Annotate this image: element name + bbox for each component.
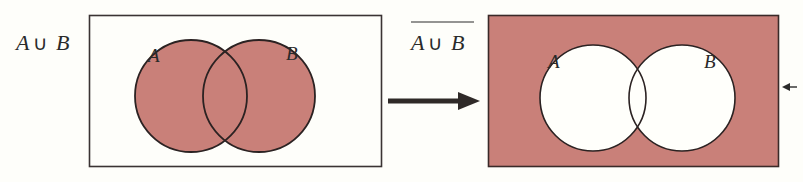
right-title-a: A <box>409 30 425 55</box>
right-title-union-symbol: ∪ <box>428 31 443 55</box>
right-title-b: B <box>451 30 464 55</box>
pointer-arrow-icon <box>782 83 797 91</box>
left-title-b: B <box>56 30 69 55</box>
left-circle-b-label: B <box>286 43 298 64</box>
left-panel-union: A B A ∪ B <box>14 16 382 167</box>
arrow-head-icon <box>458 92 480 110</box>
venn-diagram-figure: A B A ∪ B A B A ∪ B <box>0 0 803 182</box>
left-circle-a-label: A <box>146 45 160 66</box>
right-panel-complement: A B A ∪ B <box>409 16 779 167</box>
left-title-a: A <box>14 30 30 55</box>
transform-arrow <box>388 92 480 110</box>
right-circle-a-label: A <box>546 51 560 72</box>
left-title-union-symbol: ∪ <box>33 31 48 55</box>
right-title: A ∪ B <box>409 22 474 55</box>
right-circle-b-label: B <box>704 51 716 72</box>
left-title: A ∪ B <box>14 30 69 55</box>
